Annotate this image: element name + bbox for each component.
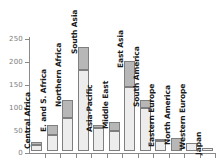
category-label-7: South America [133, 46, 141, 107]
y-tick-label-200: 200 [9, 59, 23, 66]
bar-segment-lower [202, 148, 213, 151]
category-label-11: Japan [195, 132, 203, 155]
category-label-6: East Asia [117, 30, 125, 68]
y-tick-label-100: 100 [9, 105, 23, 112]
bar-segment-upper [31, 142, 42, 145]
x-tick-mark-8 [169, 154, 170, 158]
bar-segment-upper [62, 100, 73, 118]
stacked-bar-chart: 250 200 150 100 50 0 Central AfricaE. an… [0, 0, 222, 164]
y-tick-label-0: 0 [18, 150, 23, 157]
x-tick-mark-11 [215, 154, 216, 158]
y-tick-label-50: 50 [14, 128, 23, 135]
bar-central-africa[interactable] [31, 142, 42, 151]
bar-segment-lower [47, 135, 58, 151]
category-label-3: South Asia [71, 10, 79, 54]
x-tick-mark-0 [45, 154, 46, 158]
category-label-2: Northern Africa [55, 43, 63, 107]
x-tick-mark-5 [122, 154, 123, 158]
bar-segment-lower [109, 131, 120, 151]
bar-japan[interactable] [202, 148, 213, 151]
x-tick-mark-4 [107, 154, 108, 158]
bar-segment-upper [47, 125, 58, 135]
bar-segment-lower [93, 128, 104, 151]
category-label-10: Western Europe [179, 84, 187, 150]
y-tick-label-150: 150 [9, 82, 23, 89]
bar-segment-upper [109, 122, 120, 131]
bar-middle-east[interactable] [109, 122, 120, 151]
bar-segment-upper [78, 47, 89, 70]
x-tick-mark-7 [153, 154, 154, 158]
y-tick-label-250: 250 [9, 36, 23, 43]
category-label-8: Eastern Europe [148, 83, 156, 146]
x-tick-mark-6 [138, 154, 139, 158]
x-tick-mark-3 [91, 154, 92, 158]
category-label-0: Central Africa [24, 92, 32, 149]
x-tick-mark-1 [60, 154, 61, 158]
category-label-9: North America [164, 85, 172, 145]
bar-e-and-s-africa[interactable] [47, 125, 58, 151]
bar-northern-africa[interactable] [62, 100, 73, 151]
y-axis-tick-labels: 250 200 150 100 50 0 [0, 0, 23, 164]
bar-segment-lower [62, 118, 73, 151]
x-tick-mark-9 [184, 154, 185, 158]
category-label-5: Middle East [102, 81, 110, 129]
x-tick-mark-2 [76, 154, 77, 158]
category-label-1: E. and S. Africa [40, 69, 48, 132]
bar-segment-lower [31, 145, 42, 151]
category-label-4: Asia-Pacific [86, 85, 94, 132]
